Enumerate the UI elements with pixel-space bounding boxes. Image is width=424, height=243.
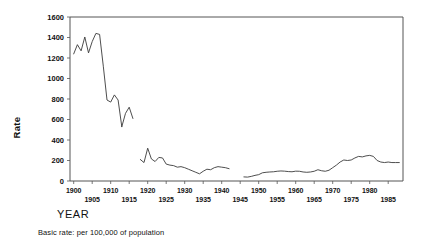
- y-tick-label: 800: [51, 95, 64, 104]
- chart-caption: Basic rate: per 100,000 of population: [38, 228, 164, 237]
- line-chart-plot: 0200400600800100012001400160019001905191…: [0, 0, 424, 243]
- x-tick-label: 1915: [121, 196, 137, 203]
- y-tick-label: 200: [51, 156, 64, 165]
- x-tick-label: 1980: [362, 187, 378, 194]
- y-axis-title: Rate: [11, 98, 22, 158]
- x-tick-label: 1940: [214, 187, 230, 194]
- x-tick-label: 1925: [158, 196, 174, 203]
- x-tick-label: 1935: [195, 196, 211, 203]
- x-tick-label: 1955: [269, 196, 285, 203]
- y-tick-label: 0: [60, 177, 64, 186]
- x-tick-label: 1920: [140, 187, 156, 194]
- x-tick-label: 1905: [84, 196, 100, 203]
- y-tick-label: 600: [51, 115, 64, 124]
- chart-figure: 0200400600800100012001400160019001905191…: [0, 0, 424, 243]
- y-tick-label: 1600: [47, 13, 64, 22]
- x-tick-label: 1965: [306, 196, 322, 203]
- x-tick-label: 1960: [288, 187, 304, 194]
- x-tick-label: 1910: [103, 187, 119, 194]
- x-tick-label: 1970: [325, 187, 341, 194]
- x-tick-label: 1945: [232, 196, 248, 203]
- data-line-segment-3: [244, 155, 399, 177]
- x-tick-label: 1975: [343, 196, 359, 203]
- plot-frame: [70, 17, 403, 181]
- x-axis-title: YEAR: [57, 208, 89, 220]
- data-line-segment-1b: [122, 107, 133, 126]
- y-tick-label: 400: [51, 136, 64, 145]
- y-tick-label: 1200: [47, 54, 64, 63]
- data-line-segment-2: [140, 148, 229, 174]
- y-tick-label: 1400: [47, 33, 64, 42]
- data-line-segment-1: [74, 33, 122, 126]
- y-tick-label: 1000: [47, 74, 64, 83]
- x-tick-label: 1950: [251, 187, 267, 194]
- x-tick-label: 1985: [380, 196, 396, 203]
- x-tick-label: 1930: [177, 187, 193, 194]
- x-tick-label: 1900: [66, 187, 82, 194]
